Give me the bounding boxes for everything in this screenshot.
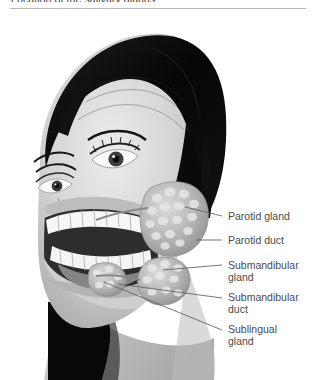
page-title: Location of the salivary glands <box>11 0 301 2</box>
label-sublingual-gland: Sublingualgland <box>228 324 277 347</box>
label-parotid-gland: Parotid gland <box>228 211 290 223</box>
label-submandibular-duct: Submandibularduct <box>228 292 299 315</box>
illustration-page: Location of the salivary glands <box>0 0 317 380</box>
sublingual-gland <box>88 263 126 297</box>
submandibular-gland <box>138 257 190 305</box>
label-parotid-duct: Parotid duct <box>228 235 284 247</box>
label-submandibular-gland: Submandibulargland <box>228 260 299 283</box>
header-divider <box>10 8 306 9</box>
